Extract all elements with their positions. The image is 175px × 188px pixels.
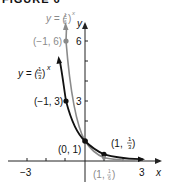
svg-text:(1,: (1,: [93, 169, 105, 180]
svg-text:y = (: y = (: [17, 68, 39, 79]
curve-one-sixth: [66, 28, 135, 161]
point-1-sixth: [102, 156, 106, 160]
point-0-1: [82, 138, 88, 144]
point-m1-3: [63, 98, 68, 103]
svg-text:x: x: [71, 10, 76, 16]
x-axis-label: x: [155, 167, 162, 178]
svg-text:6: 6: [108, 175, 111, 181]
y-tick-label-3: 3: [76, 96, 82, 107]
x-axis-arrow-icon: [155, 158, 162, 164]
svg-text:1: 1: [108, 168, 111, 174]
svg-text:6: 6: [64, 19, 67, 25]
y-tick-label-6: 6: [76, 36, 82, 47]
equation-one-sixth: y = ( 1 6 ) x: [45, 10, 76, 25]
y-axis: [82, 22, 88, 182]
svg-text:): ): [112, 169, 115, 180]
curve-third-arrow-icon: [57, 56, 63, 64]
exponential-graph: 6 3 −3 3 x y y = ( 1 6 ) x y = ( 1 3 ) x…: [0, 0, 175, 188]
equation-one-third: y = ( 1 3 ) x: [17, 64, 51, 80]
label-point-m1-6: (−1, 6): [33, 36, 62, 47]
svg-text:1: 1: [64, 12, 67, 18]
svg-text:): ): [132, 138, 135, 149]
svg-text:(1,: (1,: [111, 138, 123, 149]
svg-text:): ): [42, 68, 45, 79]
label-point-1-third: (1, 1 3 ): [111, 136, 135, 150]
label-point-1-sixth: (1, 1 6 ): [93, 168, 115, 181]
y-axis-label: y: [76, 18, 83, 29]
x-tick-label-m3: −3: [20, 167, 32, 178]
svg-text:x: x: [46, 64, 51, 71]
label-point-0-1: (0, 1): [58, 144, 81, 155]
svg-text:): ): [68, 13, 71, 24]
y-axis-arrow-icon: [82, 22, 88, 29]
point-m1-6: [63, 38, 68, 43]
label-point-m1-3: (−1, 3): [34, 96, 63, 107]
x-tick-label-3: 3: [139, 167, 145, 178]
